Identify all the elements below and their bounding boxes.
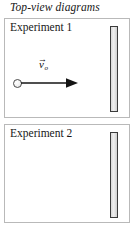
velocity-arrow-icon: [21, 76, 79, 90]
velocity-subscript: o: [44, 64, 48, 72]
velocity-symbol: →v: [39, 59, 44, 70]
experiment-1-label: Experiment 1: [10, 21, 72, 33]
experiment-1-velocity-label: →vo: [39, 59, 48, 72]
experiment-2-label: Experiment 2: [10, 127, 72, 139]
experiment-2-panel: Experiment 2 →vo: [4, 124, 130, 223]
vertical-wall-icon: [110, 26, 118, 112]
page-title: Top-view diagrams: [10, 1, 100, 13]
vertical-wall-icon: [110, 132, 118, 218]
experiment-1-panel: Experiment 1 →vo: [4, 18, 130, 118]
vector-arrow-accent-icon: →: [38, 55, 47, 64]
